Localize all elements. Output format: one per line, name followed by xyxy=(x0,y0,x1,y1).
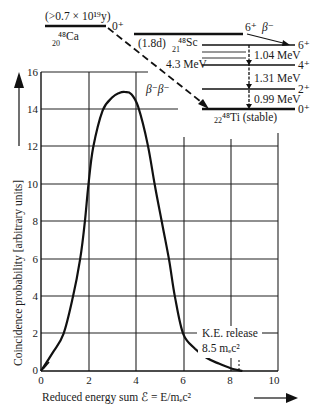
sc48-z: 21 xyxy=(172,45,180,54)
double-beta-decay-figure: 16 14 12 10 8 6 4 2 0 0 2 4 6 8 10 Reduc… xyxy=(0,0,319,408)
y-tick-16: 16 xyxy=(27,66,39,78)
ca48-z: 20 xyxy=(52,39,60,48)
y-tick-2: 2 xyxy=(33,327,39,339)
x-tick-2: 2 xyxy=(86,374,92,386)
beta-transition-line xyxy=(247,34,287,44)
x-tick-4: 4 xyxy=(133,374,139,386)
q-value-label: 4.3 MeV xyxy=(166,58,208,70)
sc48-spin: 6⁺ xyxy=(245,21,257,33)
level-diagram: (>0.7 × 10¹⁹y) 0⁺ ⁴⁸Ca 20 6⁺ (1.8d) ⁴⁸Sc… xyxy=(45,10,310,125)
x-tick-8: 8 xyxy=(227,374,233,386)
sc48-halflife: (1.8d) xyxy=(138,37,166,50)
y-tick-10: 10 xyxy=(27,178,39,190)
ti48-nucleus: ⁴⁸Ti (stable) xyxy=(222,111,277,124)
y-tick-labels: 16 14 12 10 8 6 4 2 0 xyxy=(27,66,39,376)
y-tick-4: 4 xyxy=(33,290,39,302)
sc48-nucleus: ⁴⁸Sc xyxy=(178,36,198,48)
y-tick-14: 14 xyxy=(27,103,39,115)
double-beta-label: β⁻β⁻ xyxy=(145,83,170,96)
beta-label: β⁻ xyxy=(261,21,274,34)
y-tick-8: 8 xyxy=(33,215,39,227)
ti48-z: 22 xyxy=(214,116,222,125)
y-axis-arrow-icon xyxy=(14,72,24,88)
ca48-nucleus: ⁴⁸Ca xyxy=(58,30,79,42)
x-tick-0: 0 xyxy=(38,374,44,386)
transition-3-energy: 0.99 MeV xyxy=(254,93,301,105)
ke-release-label: K.E. release xyxy=(202,327,258,339)
x-tick-10: 10 xyxy=(269,374,281,386)
ca48-halflife: (>0.7 × 10¹⁹y) xyxy=(45,10,111,23)
ca48-spin: 0⁺ xyxy=(112,20,124,32)
transition-1-energy: 1.04 MeV xyxy=(254,49,301,61)
transition-2-energy: 1.31 MeV xyxy=(254,72,301,84)
x-tick-labels: 0 2 4 6 8 10 xyxy=(38,374,280,386)
ke-release-value: 8.5 mₑc² xyxy=(202,342,240,354)
y-tick-12: 12 xyxy=(27,140,38,152)
x-axis-label: Reduced energy sum ℰ = E/mₑc² xyxy=(42,391,192,404)
y-tick-6: 6 xyxy=(33,253,39,265)
y-axis-label: Coincidence probability [arbitrary units… xyxy=(12,180,25,366)
x-axis-arrow-icon xyxy=(286,393,298,403)
x-tick-6: 6 xyxy=(180,374,186,386)
